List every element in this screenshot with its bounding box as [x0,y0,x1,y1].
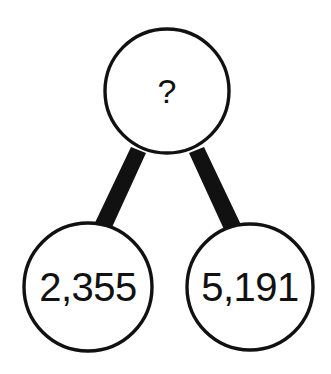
number-bond-diagram: ? 2,355 5,191 [0,0,331,374]
connector-right-branch [189,147,243,236]
part-right-value-label: 5,191 [187,224,313,350]
part-left-value-label: 2,355 [24,223,152,351]
total-value-label: ? [105,29,229,153]
